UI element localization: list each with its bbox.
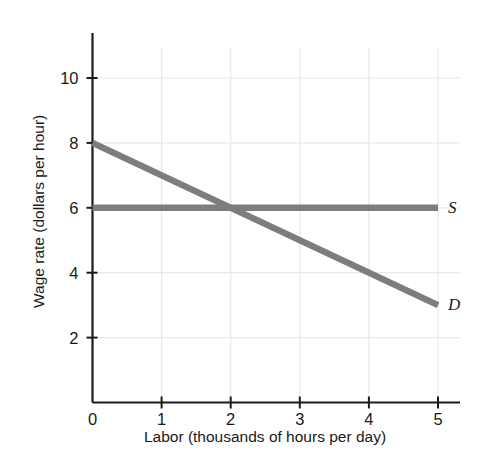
y-tick-label: 2: [45, 330, 79, 347]
y-axis-title: Wage rate (dollars per hour): [30, 8, 48, 308]
x-tick-label: 4: [354, 411, 384, 428]
curve-label-D: D: [448, 296, 460, 313]
x-tick-label: 3: [285, 411, 315, 428]
data-series-group: [93, 143, 439, 305]
x-tick-label: 2: [216, 411, 246, 428]
x-tick-label: 5: [423, 411, 453, 428]
tick-marks-group: [87, 78, 439, 409]
x-tick-label: 1: [147, 411, 177, 428]
curve-label-S: S: [448, 199, 457, 216]
gridlines-group: [93, 48, 461, 403]
y-tick-label: 4: [45, 265, 79, 282]
x-axis-title: Labor (thousands of hours per day): [92, 428, 438, 446]
series-line-D: [93, 143, 439, 305]
y-tick-label: 8: [45, 135, 79, 152]
labor-market-chart-figure: pply 246810 012345 SD Wage rate (dollars…: [0, 0, 483, 468]
axes-group: [93, 33, 461, 403]
x-tick-label: 0: [78, 411, 108, 428]
y-tick-label: 6: [45, 200, 79, 217]
y-tick-label: 10: [45, 70, 79, 87]
